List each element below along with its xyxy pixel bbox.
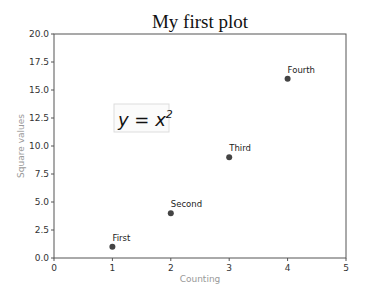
svg-text:y = x2: y = x2	[117, 108, 173, 130]
equation-box: y = x2	[114, 104, 173, 132]
x-tick-label: 4	[285, 263, 291, 273]
x-tick-label: 2	[168, 263, 174, 273]
x-axis-label: Counting	[180, 274, 221, 284]
y-tick-label: 7.5	[35, 169, 49, 179]
point-label: Second	[171, 199, 202, 209]
y-axis-ticks: 0.02.55.07.510.012.515.017.520.0	[29, 29, 54, 263]
point-label: Third	[228, 143, 251, 153]
y-tick-label: 10.0	[29, 141, 49, 151]
y-tick-label: 15.0	[29, 85, 49, 95]
y-axis-label: Square values	[16, 114, 26, 178]
x-tick-label: 3	[226, 263, 232, 273]
y-tick-label: 5.0	[35, 197, 50, 207]
data-point	[109, 244, 115, 250]
x-tick-label: 5	[343, 263, 349, 273]
data-point	[168, 210, 174, 216]
y-tick-label: 12.5	[29, 113, 49, 123]
data-point	[285, 76, 291, 82]
y-tick-label: 2.5	[35, 225, 49, 235]
point-label: Fourth	[288, 65, 315, 75]
data-point	[226, 154, 232, 160]
x-axis-ticks: 012345	[51, 258, 349, 273]
x-tick-label: 0	[51, 263, 57, 273]
chart-canvas: My first plot 0.02.55.07.510.012.515.017…	[0, 0, 366, 297]
y-tick-label: 0.0	[35, 253, 50, 263]
point-label: First	[112, 233, 131, 243]
x-tick-label: 1	[110, 263, 116, 273]
y-tick-label: 17.5	[29, 57, 49, 67]
y-tick-label: 20.0	[29, 29, 49, 39]
chart-title: My first plot	[152, 11, 249, 32]
